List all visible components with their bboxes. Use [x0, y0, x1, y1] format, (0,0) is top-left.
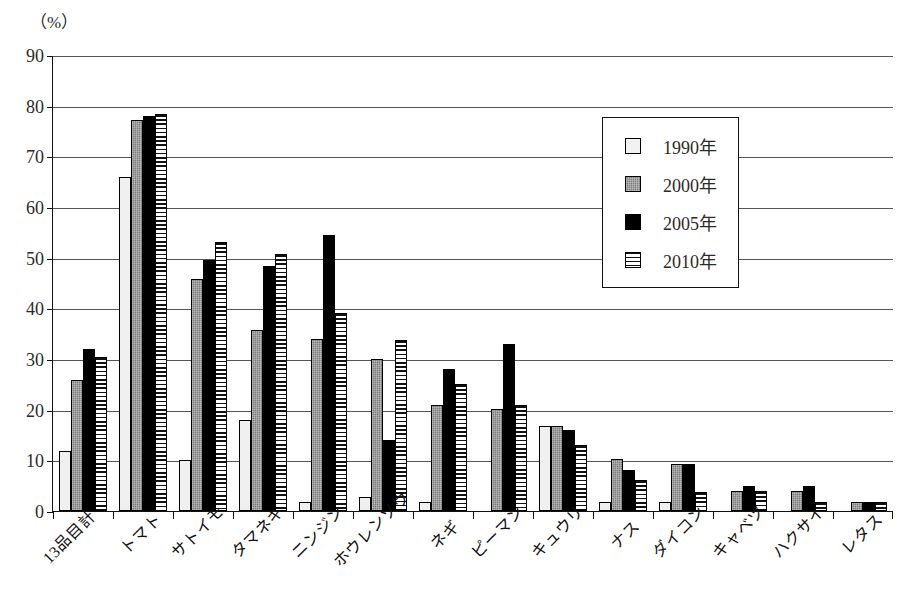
x-axis-tick-mark: [173, 511, 174, 519]
bar-2005-キュウリ: [563, 430, 575, 511]
bar-2010-ネギ: [455, 384, 467, 511]
x-axis-label-13: レタス: [835, 506, 887, 558]
legend-item-2010[interactable]: 2010年: [625, 241, 738, 279]
bar-2005-ニンジン: [323, 235, 335, 511]
plot-area: 0102030405060708090: [52, 56, 893, 512]
bar-1990-ネギ: [419, 502, 431, 511]
bar-1990-タマネギ: [239, 420, 251, 511]
bar-2010-ニンジン: [335, 313, 347, 511]
bar-group: [413, 56, 473, 511]
bar-2010-ナス: [635, 480, 647, 511]
y-axis-tick-label: 30: [26, 350, 44, 371]
y-axis-tick-label: 40: [26, 299, 44, 320]
y-axis-tick-label: 70: [26, 147, 44, 168]
bar-2005-サトイモ: [203, 260, 215, 511]
bar-2000-トマト: [131, 120, 143, 511]
x-axis-tick-mark: [653, 511, 654, 519]
bar-2005-トマト: [143, 116, 155, 511]
bar-2010-タマネギ: [275, 254, 287, 511]
legend-item-2005[interactable]: 2005年: [625, 203, 738, 241]
x-axis-tick-mark: [833, 511, 834, 519]
x-axis-label-0: 13品目計: [36, 503, 100, 567]
bar-2005-ナス: [623, 470, 635, 511]
y-axis-tick-label: 60: [26, 198, 44, 219]
x-axis-tick-mark: [773, 511, 774, 519]
legend: 1990年2000年2005年2010年: [602, 117, 739, 288]
bar-1990-サトイモ: [179, 460, 191, 511]
x-axis-tick-mark: [113, 511, 114, 519]
legend-label: 2000年: [663, 171, 717, 197]
bar-group: [113, 56, 173, 511]
bar-group: [833, 56, 893, 511]
bar-1990-キュウリ: [539, 426, 551, 511]
bar-chart: （%） 0102030405060708090 13品目計トマトサトイモタマネギ…: [0, 0, 906, 610]
legend-swatch-icon: [625, 138, 641, 154]
legend-item-1990[interactable]: 1990年: [625, 127, 738, 165]
bar-2000-サトイモ: [191, 279, 203, 511]
bar-1990-13品目計: [59, 451, 71, 511]
bar-2010-サトイモ: [215, 242, 227, 511]
x-axis-tick-mark: [353, 511, 354, 519]
x-axis-tick-mark: [293, 511, 294, 519]
y-axis-tick-label: 90: [26, 46, 44, 67]
legend-swatch-icon: [625, 176, 641, 192]
bar-2000-13品目計: [71, 380, 83, 511]
x-axis-tick-mark: [533, 511, 534, 519]
bar-2010-トマト: [155, 114, 167, 511]
legend-item-2000[interactable]: 2000年: [625, 165, 738, 203]
x-axis-tick-mark: [593, 511, 594, 519]
bar-2000-タマネギ: [251, 330, 263, 511]
bar-1990-ホウレンソウ: [359, 497, 371, 511]
bar-group: [473, 56, 533, 511]
bar-group: [533, 56, 593, 511]
bar-2000-ホウレンソウ: [371, 359, 383, 511]
bar-2005-タマネギ: [263, 266, 275, 511]
x-axis-tick-mark-end: [892, 511, 893, 519]
bar-2010-レタス: [875, 502, 887, 511]
bar-1990-ナス: [599, 502, 611, 511]
y-axis-tick-label: 50: [26, 248, 44, 269]
x-axis-tick-mark: [233, 511, 234, 519]
bar-1990-ダイコン: [659, 502, 671, 511]
bar-2000-キャベツ: [731, 491, 743, 511]
bar-2000-レタス: [851, 502, 863, 511]
bar-group: [293, 56, 353, 511]
y-axis-tick-label: 20: [26, 400, 44, 421]
y-axis-unit-label: （%）: [30, 8, 78, 33]
x-axis-tick-mark: [53, 511, 54, 519]
bar-group: [773, 56, 833, 511]
bar-2000-ナス: [611, 459, 623, 511]
bar-2005-ピーマン: [503, 344, 515, 511]
bar-1990-ニンジン: [299, 502, 311, 511]
bar-groups: [53, 56, 893, 511]
bar-2000-ピーマン: [491, 409, 503, 511]
bar-2010-キュウリ: [575, 445, 587, 511]
x-axis-label-9: ナス: [604, 514, 644, 554]
bar-2000-ハクサイ: [791, 491, 803, 511]
x-axis-tick-mark: [413, 511, 414, 519]
bar-1990-トマト: [119, 177, 131, 511]
x-axis-tick-mark: [473, 511, 474, 519]
bar-2005-13品目計: [83, 349, 95, 511]
bar-2010-13品目計: [95, 357, 107, 511]
bar-2000-ニンジン: [311, 339, 323, 511]
x-axis-label-1: トマト: [114, 506, 166, 558]
bar-2000-ダイコン: [671, 464, 683, 511]
legend-swatch-icon: [625, 214, 641, 230]
y-axis-tick-label: 0: [35, 502, 44, 523]
bar-group: [53, 56, 113, 511]
bar-group: [233, 56, 293, 511]
legend-label: 2005年: [663, 209, 717, 235]
bar-2000-ネギ: [431, 405, 443, 511]
legend-label: 1990年: [663, 133, 717, 159]
bar-group: [173, 56, 233, 511]
y-axis-tick-label: 80: [26, 96, 44, 117]
x-axis-tick-mark: [713, 511, 714, 519]
bar-group: [353, 56, 413, 511]
legend-swatch-icon: [625, 252, 641, 268]
legend-label: 2010年: [663, 247, 717, 273]
bar-2005-ネギ: [443, 369, 455, 511]
bar-2000-キュウリ: [551, 426, 563, 511]
y-axis-tick-label: 10: [26, 451, 44, 472]
x-axis-label-6: ネギ: [424, 514, 464, 554]
